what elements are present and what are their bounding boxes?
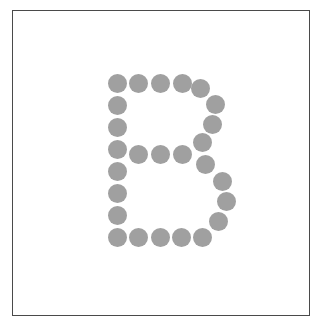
dot <box>151 145 170 164</box>
dot <box>129 74 148 93</box>
dot <box>213 172 232 191</box>
dot <box>193 133 212 152</box>
dot <box>108 206 127 225</box>
dot <box>129 228 148 247</box>
dot <box>108 140 127 159</box>
dot <box>108 228 127 247</box>
dot <box>191 79 210 98</box>
dot <box>196 155 215 174</box>
dot <box>151 74 170 93</box>
dot <box>151 228 170 247</box>
dot <box>217 192 236 211</box>
dot <box>203 115 222 134</box>
dot <box>108 184 127 203</box>
dot <box>108 74 127 93</box>
dot <box>206 95 225 114</box>
dot <box>172 228 191 247</box>
dot <box>193 228 212 247</box>
dot <box>173 74 192 93</box>
dot <box>209 212 228 231</box>
dot <box>108 118 127 137</box>
dot <box>108 96 127 115</box>
dot <box>173 145 192 164</box>
dot <box>129 145 148 164</box>
dotted-letter-b <box>0 0 318 323</box>
dot <box>108 162 127 181</box>
